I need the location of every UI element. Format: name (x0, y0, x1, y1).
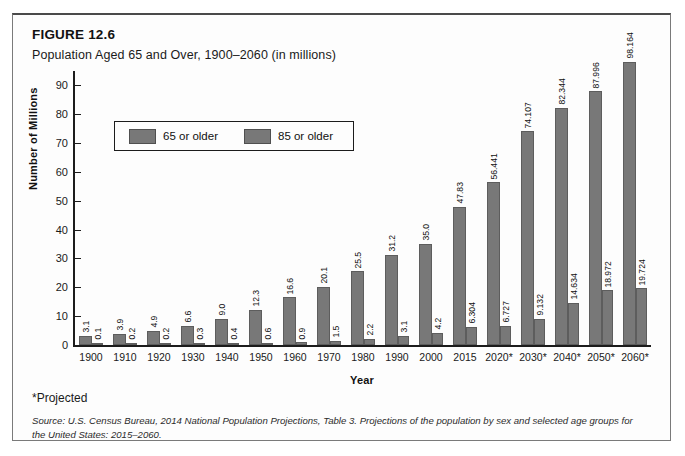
bar-value-label: 6.6 (183, 311, 192, 323)
bar-65-or-older: 31.2 (385, 255, 398, 345)
bar-group: 47.836.304 (453, 71, 481, 345)
bar-65-or-older: 87.996 (589, 91, 602, 345)
bar-65-or-older: 12.3 (249, 310, 262, 345)
y-tick-label: 90 (56, 79, 68, 91)
bar-value-label: 4.2 (433, 318, 442, 330)
bar-65-or-older: 82.344 (555, 108, 568, 345)
bar-value-label: 47.83 (455, 183, 464, 205)
bar-value-label: 98.164 (625, 33, 634, 59)
bar-85-or-older: 0.3 (194, 343, 205, 345)
bar-value-label: 2.2 (365, 324, 374, 336)
figure-container: FIGURE 12.6 Population Aged 65 and Over,… (12, 13, 671, 441)
bar-value-label: 3.1 (399, 321, 408, 333)
bar-value-label: 6.304 (467, 302, 476, 324)
x-tick-label: 2040* (553, 351, 580, 363)
bar-group: 20.11.5 (317, 71, 345, 345)
bar-value-label: 0.2 (127, 328, 136, 340)
source-note: Source: U.S. Census Bureau, 2014 Nationa… (32, 414, 642, 442)
bar-85-or-older: 6.304 (466, 327, 477, 345)
bar-value-label: 87.996 (591, 62, 600, 88)
bar-group: 12.30.6 (249, 71, 277, 345)
bar-value-label: 9.132 (535, 294, 544, 316)
bar-value-label: 20.1 (319, 267, 328, 284)
bar-group: 98.16419.724 (623, 71, 651, 345)
x-tick-label: 1940 (215, 351, 238, 363)
y-tick-label: 0 (62, 339, 68, 351)
bar-group: 87.99618.972 (589, 71, 617, 345)
legend-item-85-or-older: 85 or older (244, 129, 333, 144)
bar-value-label: 31.2 (387, 235, 396, 252)
x-tick-label: 2030* (519, 351, 546, 363)
y-tick-label: 70 (56, 137, 68, 149)
bar-value-label: 0.9 (297, 327, 306, 339)
bar-value-label: 56.441 (489, 153, 498, 179)
x-tick-label: 1900 (79, 351, 102, 363)
x-tick-label: 2060* (621, 351, 648, 363)
bar-65-or-older: 4.9 (147, 331, 160, 345)
bar-value-label: 0.4 (229, 328, 238, 340)
y-tick-label: 20 (56, 281, 68, 293)
bar-group: 9.00.4 (215, 71, 243, 345)
x-tick-label: 2015 (453, 351, 476, 363)
bar-group: 3.90.2 (113, 71, 141, 345)
bar-65-or-older: 25.5 (351, 271, 364, 345)
bar-65-or-older: 74.107 (521, 131, 534, 345)
bar-group: 56.4416.727 (487, 71, 515, 345)
bar-value-label: 9.0 (217, 304, 226, 316)
bar-85-or-older: 1.5 (330, 341, 341, 345)
bar-85-or-older: 18.972 (602, 290, 613, 345)
y-tick-label: 30 (56, 252, 68, 264)
bar-65-or-older: 35.0 (419, 244, 432, 345)
bar-85-or-older: 0.9 (296, 342, 307, 345)
y-tick-label: 60 (56, 166, 68, 178)
bar-value-label: 4.9 (149, 316, 158, 328)
x-tick-label: 2020* (485, 351, 512, 363)
y-axis-line (73, 71, 75, 347)
x-tick-label: 1980 (351, 351, 374, 363)
bar-85-or-older: 19.724 (636, 288, 647, 345)
bar-value-label: 0.2 (161, 328, 170, 340)
x-tick-label: 1970 (317, 351, 340, 363)
x-tick-label: 1910 (113, 351, 136, 363)
bar-value-label: 35.0 (421, 224, 430, 241)
bar-value-label: 18.972 (603, 261, 612, 287)
bar-group: 3.10.1 (79, 71, 107, 345)
bar-65-or-older: 47.83 (453, 207, 466, 345)
bar-group: 74.1079.132 (521, 71, 549, 345)
bar-value-label: 3.9 (115, 319, 124, 331)
bar-85-or-older: 0.2 (126, 343, 137, 345)
bar-85-or-older: 6.727 (500, 326, 511, 345)
chart-legend: 65 or older 85 or older (114, 121, 354, 151)
bar-group: 31.23.1 (385, 71, 413, 345)
x-axis-line (73, 345, 651, 347)
legend-label: 65 or older (163, 130, 218, 142)
bar-value-label: 14.634 (569, 274, 578, 300)
x-axis-title: Year (73, 374, 651, 386)
bar-65-or-older: 3.9 (113, 334, 126, 345)
legend-label: 85 or older (278, 130, 333, 142)
y-tick-label: 50 (56, 195, 68, 207)
x-tick-label: 1960 (283, 351, 306, 363)
x-tick-label: 2050* (587, 351, 614, 363)
bar-85-or-older: 14.634 (568, 303, 579, 345)
y-tick-label: 10 (56, 310, 68, 322)
bar-value-label: 1.5 (331, 326, 340, 338)
bar-85-or-older: 0.2 (160, 343, 171, 345)
x-tick-label: 1990 (385, 351, 408, 363)
bar-65-or-older: 6.6 (181, 326, 194, 345)
bar-85-or-older: 0.6 (262, 343, 273, 345)
figure-title: Population Aged 65 and Over, 1900–2060 (… (32, 48, 336, 62)
bar-group: 35.04.2 (419, 71, 447, 345)
bar-65-or-older: 16.6 (283, 297, 296, 345)
bar-65-or-older: 98.164 (623, 62, 636, 345)
y-tick-label: 40 (56, 224, 68, 236)
legend-swatch-icon (244, 129, 271, 144)
bar-group: 16.60.9 (283, 71, 311, 345)
bar-85-or-older: 9.132 (534, 319, 545, 345)
bar-65-or-older: 9.0 (215, 319, 228, 345)
bar-group: 25.52.2 (351, 71, 379, 345)
bar-group: 6.60.3 (181, 71, 209, 345)
figure-page: FIGURE 12.6 Population Aged 65 and Over,… (0, 0, 685, 456)
bar-group: 4.90.2 (147, 71, 175, 345)
x-tick-label: 1920 (147, 351, 170, 363)
